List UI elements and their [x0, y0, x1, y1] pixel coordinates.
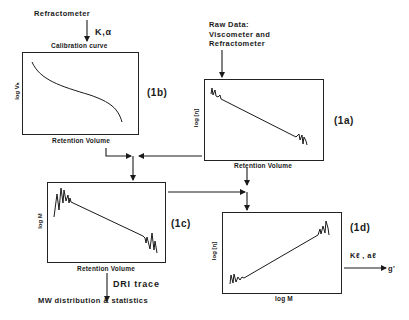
- diagram-connectors: [0, 0, 409, 320]
- panel-1c-curve: [54, 188, 157, 253]
- panel-1a-curve: [211, 88, 307, 145]
- arrow-1b-to-junction: [106, 148, 131, 156]
- panel-1d-curve: [230, 221, 329, 284]
- panel-1b-curve: [32, 62, 122, 122]
